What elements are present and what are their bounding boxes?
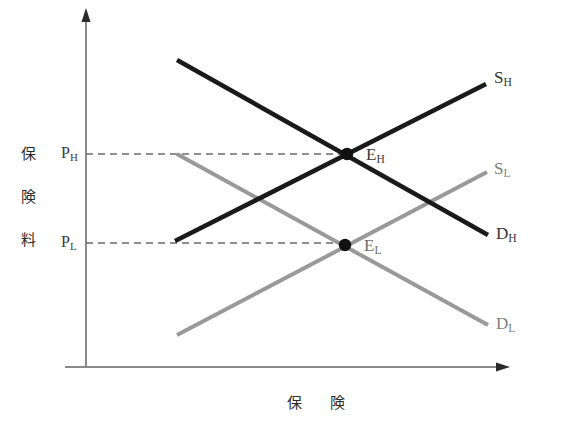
demand-high-label: DH — [496, 225, 517, 242]
price-low-subscript: L — [70, 240, 77, 252]
supply-high-curve — [175, 84, 486, 241]
demand-low-curve — [177, 154, 488, 325]
price-high-symbol: P — [61, 144, 70, 161]
chart-canvas — [0, 0, 580, 431]
price-low-symbol: P — [61, 233, 70, 250]
demand-high-curve — [177, 60, 488, 235]
supply-low-subscript: L — [503, 167, 510, 180]
insurance-supply-demand-figure: 保 険 料 保 険 PH PL SH SL DH DL EH EL — [0, 0, 580, 431]
y-axis-arrowhead — [82, 8, 91, 22]
demand-low-label: DL — [496, 315, 515, 332]
equilibrium-low-symbol: E — [364, 236, 374, 255]
equilibrium-low-dot — [339, 239, 351, 251]
low-curves-group — [177, 154, 488, 335]
y-axis-label-char-1: 保 — [21, 147, 36, 162]
demand-low-subscript: L — [508, 322, 515, 335]
demand-low-symbol: D — [496, 314, 508, 333]
price-low-tick-label: PL — [61, 234, 77, 250]
y-axis-label-char-2: 険 — [21, 190, 36, 205]
demand-high-subscript: H — [508, 232, 516, 245]
supply-low-label: SL — [494, 160, 511, 177]
equilibrium-high-dot — [341, 148, 353, 160]
equilibrium-markers-group — [339, 148, 353, 251]
supply-low-curve — [177, 172, 487, 335]
demand-high-symbol: D — [496, 224, 508, 243]
price-high-tick-label: PH — [61, 145, 78, 161]
equilibrium-high-symbol: E — [366, 145, 376, 164]
x-axis-arrowhead — [496, 363, 510, 372]
supply-high-subscript: H — [503, 76, 511, 89]
supply-high-label: SH — [494, 69, 512, 86]
equilibrium-high-label: EH — [366, 146, 385, 163]
reference-lines-group — [86, 154, 347, 243]
equilibrium-high-subscript: H — [376, 153, 384, 166]
y-axis-label-char-3: 料 — [21, 233, 36, 248]
x-axis-label-char-2: 険 — [330, 396, 345, 411]
axes-group — [65, 8, 510, 372]
price-high-subscript: H — [70, 151, 78, 163]
equilibrium-low-subscript: L — [374, 244, 381, 257]
high-curves-group — [175, 60, 488, 241]
equilibrium-low-label: EL — [364, 237, 381, 254]
x-axis-label-char-1: 保 — [287, 396, 302, 411]
